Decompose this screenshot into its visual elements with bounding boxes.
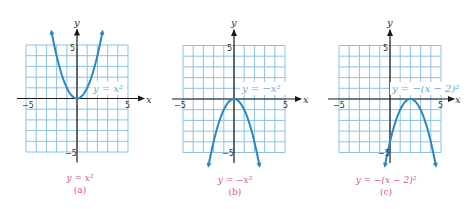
caption-letter-c: (c)	[380, 187, 392, 197]
equation-label: y = −(x − 2)²	[391, 83, 459, 94]
equation-label: y = −x²	[241, 83, 280, 94]
caption-equation-c: y = −(x − 2)²	[355, 175, 417, 185]
tick-5-y: 5	[383, 44, 388, 53]
curve-arrow-icon	[50, 30, 55, 35]
tick-neg5-y: −5	[378, 149, 390, 158]
caption-letter-b: (b)	[229, 187, 242, 197]
tick-neg5-x: −5	[22, 101, 34, 110]
caption-letter-a: (a)	[74, 185, 86, 195]
curve-arrow-icon	[207, 162, 212, 167]
panel-a: x y −5 5 5 −5 y = x²	[17, 17, 152, 163]
y-axis-label: y	[73, 17, 80, 28]
tick-5-y: 5	[227, 44, 232, 53]
tick-5-x: 5	[283, 101, 288, 110]
tick-5-y: 5	[70, 44, 75, 53]
tick-5-x: 5	[125, 101, 130, 110]
curve-arrow-icon	[256, 162, 261, 167]
x-axis-label: x	[455, 94, 461, 105]
figure-canvas: x y −5 5 5 −5 y = x² x y −5 5 5 −5 y = −…	[0, 0, 474, 209]
equation-label: y = x²	[92, 83, 123, 94]
tick-neg5-y: −5	[222, 149, 234, 158]
curve-arrow-icon	[383, 162, 388, 167]
x-axis-label: x	[146, 94, 152, 105]
panel-c: x y −5 5 5 −5 y = −(x − 2)²	[328, 17, 461, 168]
y-axis-label: y	[386, 17, 393, 28]
caption-equation-b: y = −x²	[217, 175, 253, 185]
tick-neg5-x: −5	[174, 101, 186, 110]
tick-neg5-x: −5	[333, 101, 345, 110]
tick-5-x: 5	[438, 101, 443, 110]
curve-arrow-icon	[99, 30, 104, 35]
x-axis-label: x	[303, 94, 309, 105]
curve-arrow-icon	[433, 162, 438, 167]
caption-equation-a: y = x²	[65, 173, 93, 183]
tick-neg5-y: −5	[65, 149, 77, 158]
y-axis-label: y	[230, 17, 237, 28]
panel-b: x y −5 5 5 −5 y = −x²	[172, 17, 309, 168]
